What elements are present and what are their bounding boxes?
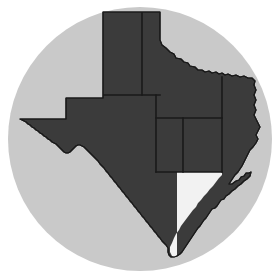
map-canvas xyxy=(0,0,277,276)
texas-region-map-figure: Map of Texas inside a light gray circle.… xyxy=(0,0,277,276)
